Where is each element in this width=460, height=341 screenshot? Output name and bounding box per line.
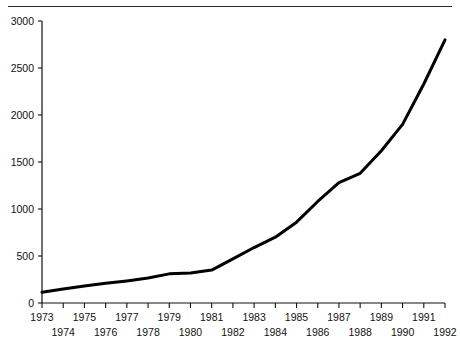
x-tick-label-1977: 1977 [115, 311, 139, 323]
x-tick-label-1984: 1984 [264, 326, 288, 338]
x-tick-label-1975: 1975 [73, 311, 97, 323]
y-tick-label: 2000 [11, 109, 35, 121]
series-line-series-1 [42, 40, 445, 292]
x-axis [42, 303, 445, 308]
y-tick-label: 1000 [11, 203, 35, 215]
x-tick-label-1981: 1981 [200, 311, 224, 323]
x-tick-label-1990: 1990 [391, 326, 415, 338]
x-tick-label-1988: 1988 [348, 326, 372, 338]
y-tick-label: 2500 [11, 62, 35, 74]
x-tick-label-1992: 1992 [433, 326, 457, 338]
x-tick-label-1985: 1985 [285, 311, 309, 323]
chart-figure: 050010001500200025003000 197319741975197… [0, 0, 460, 341]
x-tick-label-1974: 1974 [52, 326, 76, 338]
x-tick-label-1976: 1976 [94, 326, 118, 338]
y-axis [38, 21, 42, 303]
x-tick-label-1973: 1973 [30, 311, 54, 323]
y-tick-labels: 050010001500200025003000 [11, 15, 35, 309]
y-tick-label: 0 [28, 297, 34, 309]
line-chart-plot: 050010001500200025003000 197319741975197… [0, 0, 460, 341]
x-tick-label-1980: 1980 [179, 326, 203, 338]
x-tick-labels: 1973197419751976197719781979198019811982… [30, 311, 457, 338]
y-tick-label: 3000 [11, 15, 35, 27]
x-tick-label-1989: 1989 [370, 311, 394, 323]
y-tick-label: 1500 [11, 156, 35, 168]
x-tick-label-1982: 1982 [221, 326, 245, 338]
x-tick-label-1979: 1979 [158, 311, 182, 323]
x-tick-label-1986: 1986 [306, 326, 330, 338]
y-tick-label: 500 [16, 250, 34, 262]
x-tick-label-1991: 1991 [412, 311, 436, 323]
x-tick-label-1983: 1983 [242, 311, 266, 323]
data-series-group [42, 40, 445, 292]
x-tick-label-1978: 1978 [136, 326, 160, 338]
x-tick-label-1987: 1987 [327, 311, 351, 323]
